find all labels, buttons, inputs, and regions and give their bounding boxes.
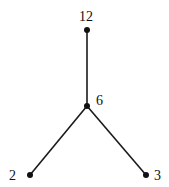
node-label-6: 6	[96, 93, 103, 108]
node-6	[84, 103, 90, 109]
node-12	[84, 27, 90, 33]
node-label-2: 2	[9, 168, 16, 183]
labels: 12623	[9, 9, 161, 183]
node-2	[27, 172, 33, 178]
edges	[30, 30, 146, 175]
node-label-3: 3	[154, 168, 161, 183]
tree-diagram: 12623	[0, 0, 169, 187]
edge-6-3	[87, 106, 146, 175]
node-label-12: 12	[79, 9, 93, 24]
node-3	[143, 172, 149, 178]
edge-6-2	[30, 106, 87, 175]
